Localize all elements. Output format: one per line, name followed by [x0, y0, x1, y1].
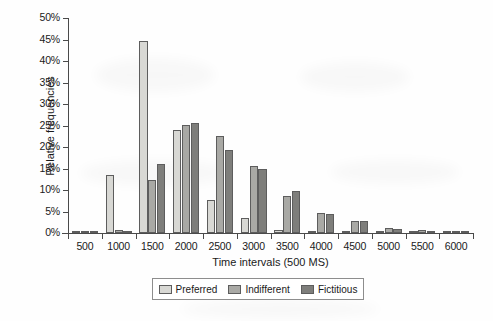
bar-group [136, 18, 170, 233]
bar-group [372, 18, 406, 233]
bar-preferred-500 [72, 231, 80, 233]
x-axis-title: Time intervals (500 MS) [68, 256, 473, 268]
bar-indifferent-3500 [283, 196, 291, 233]
x-tick-label: 4000 [310, 240, 333, 252]
bar-group [338, 18, 372, 233]
y-tick-label: 35% [40, 76, 60, 88]
y-tick-label: 30% [40, 97, 60, 109]
x-tick-mark [68, 233, 69, 239]
x-tick-label: 5500 [411, 240, 434, 252]
bar-indifferent-5000 [385, 228, 393, 233]
x-tick-label: 1500 [141, 240, 164, 252]
x-tick-label: 4500 [344, 240, 367, 252]
x-tick-mark [169, 233, 170, 239]
bar-fictitious-3000 [258, 169, 266, 233]
legend-item-preferred: Preferred [159, 284, 218, 295]
legend-label: Fictitious [318, 284, 357, 295]
bar-group [271, 18, 305, 233]
bar-indifferent-500 [81, 231, 89, 233]
x-tick-mark [473, 233, 474, 239]
bar-preferred-4500 [342, 231, 350, 233]
bar-fictitious-5500 [427, 231, 435, 233]
bar-indifferent-4000 [317, 213, 325, 233]
legend-label: Indifferent [245, 284, 289, 295]
x-tick-mark [372, 233, 373, 239]
bar-group [102, 18, 136, 233]
chart-figure: Relative frequencies 0%5%10%15%20%25%30%… [0, 0, 493, 321]
bar-indifferent-2500 [216, 136, 224, 233]
x-tick-mark [271, 233, 272, 239]
y-tick-label: 50% [40, 11, 60, 23]
scan-artifact [180, 300, 380, 318]
y-tick-label: 45% [40, 33, 60, 45]
bar-group [406, 18, 440, 233]
bar-indifferent-4500 [351, 221, 359, 233]
x-tick-mark [439, 233, 440, 239]
bar-indifferent-3000 [250, 166, 258, 233]
bar-preferred-5000 [376, 231, 384, 233]
x-tick-mark [136, 233, 137, 239]
y-tick-label: 15% [40, 162, 60, 174]
bar-fictitious-4500 [360, 221, 368, 233]
y-tick-label: 20% [40, 140, 60, 152]
bar-group [169, 18, 203, 233]
y-tick-label: 40% [40, 54, 60, 66]
bar-preferred-1500 [139, 41, 147, 233]
bar-preferred-2000 [173, 130, 181, 233]
y-tick-label: 5% [45, 205, 60, 217]
chart-legend: PreferredIndifferentFictitious [152, 278, 364, 300]
bar-fictitious-2000 [191, 123, 199, 233]
x-tick-label: 2500 [209, 240, 232, 252]
bar-preferred-1000 [106, 175, 114, 233]
x-tick-label: 3500 [276, 240, 299, 252]
x-tick-label: 6000 [445, 240, 468, 252]
legend-swatch-icon [228, 285, 241, 294]
x-tick-mark [237, 233, 238, 239]
x-tick-label: 500 [76, 240, 93, 252]
bar-group [203, 18, 237, 233]
legend-item-fictitious: Fictitious [301, 284, 357, 295]
y-tick-label: 10% [40, 183, 60, 195]
bar-fictitious-500 [90, 231, 98, 233]
x-tick-label: 5000 [377, 240, 400, 252]
bar-fictitious-3500 [292, 191, 300, 233]
bar-preferred-6000 [443, 231, 451, 233]
bar-fictitious-2500 [225, 150, 233, 233]
x-tick-label: 3000 [242, 240, 265, 252]
bar-fictitious-1500 [157, 164, 165, 233]
plot-area [68, 18, 473, 233]
bar-preferred-2500 [207, 200, 215, 233]
legend-swatch-icon [159, 285, 172, 294]
x-tick-label: 2000 [175, 240, 198, 252]
bar-indifferent-1000 [115, 230, 123, 233]
bar-indifferent-1500 [148, 180, 156, 233]
x-tick-mark [406, 233, 407, 239]
x-tick-mark [203, 233, 204, 239]
legend-swatch-icon [301, 285, 314, 294]
legend-item-indifferent: Indifferent [228, 284, 289, 295]
bar-indifferent-2000 [182, 125, 190, 233]
bar-preferred-5500 [409, 231, 417, 233]
bar-fictitious-1000 [123, 231, 131, 233]
x-tick-mark [102, 233, 103, 239]
bar-preferred-3500 [274, 230, 282, 233]
bar-group [68, 18, 102, 233]
y-tick-label: 25% [40, 119, 60, 131]
bar-indifferent-6000 [452, 231, 460, 233]
legend-label: Preferred [176, 284, 218, 295]
y-tick-label: 0% [45, 226, 60, 238]
x-tick-mark [338, 233, 339, 239]
bar-group [439, 18, 473, 233]
bar-indifferent-5500 [418, 230, 426, 233]
bar-preferred-4000 [308, 231, 316, 233]
bar-preferred-3000 [241, 218, 249, 233]
x-tick-label: 1000 [107, 240, 130, 252]
x-axis-line [62, 233, 474, 234]
bar-group [237, 18, 271, 233]
bar-fictitious-6000 [461, 231, 469, 233]
x-tick-mark [304, 233, 305, 239]
bar-group [304, 18, 338, 233]
bar-fictitious-5000 [393, 229, 401, 233]
bar-fictitious-4000 [326, 214, 334, 233]
